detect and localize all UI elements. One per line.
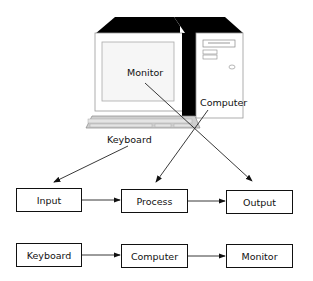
arrow-keyboard-to-input xyxy=(54,146,128,182)
box-process: Process xyxy=(121,189,188,213)
box-computer: Computer xyxy=(121,244,188,268)
computer-illustration xyxy=(86,17,243,128)
monitor-label: Monitor xyxy=(127,68,163,78)
computer-label: Computer xyxy=(200,98,247,108)
box-output: Output xyxy=(226,190,293,214)
box-input: Input xyxy=(16,188,82,212)
box-monitor: Monitor xyxy=(226,244,293,268)
box-keyboard: Keyboard xyxy=(16,243,82,267)
diagram-canvas xyxy=(0,0,313,281)
keyboard-label: Keyboard xyxy=(107,135,152,145)
